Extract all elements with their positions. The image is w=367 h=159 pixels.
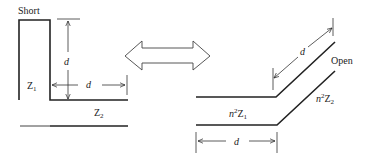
diagonal-dim-label: d bbox=[300, 46, 306, 57]
lower-conductor bbox=[196, 71, 335, 125]
horizontal-dim-label: d bbox=[86, 79, 92, 90]
n2z1-label: n2Z1 bbox=[229, 107, 248, 121]
diagonal-dim-arrow-down bbox=[274, 57, 298, 78]
diagonal-dim-arrow-up bbox=[308, 28, 332, 47]
z1-label: Z1 bbox=[27, 80, 37, 93]
upper-conductor bbox=[196, 42, 335, 97]
short-label: Short bbox=[18, 5, 40, 16]
z2-label: Z2 bbox=[94, 107, 104, 120]
vertical-dim-label: d bbox=[64, 56, 70, 67]
left-shorted-stub-circuit: Short d d Z1 Z2 bbox=[18, 5, 128, 126]
right-open-circuit-equivalent: Open d d n2Z1 n2Z2 bbox=[196, 18, 353, 153]
n2z2-label: n2Z2 bbox=[316, 92, 335, 106]
bottom-dim-label: d bbox=[234, 136, 240, 147]
double-headed-arrow-icon bbox=[125, 41, 210, 70]
transmission-line-diagram: Short d d Z1 Z2 Open d bbox=[0, 0, 367, 159]
open-label: Open bbox=[331, 55, 353, 66]
